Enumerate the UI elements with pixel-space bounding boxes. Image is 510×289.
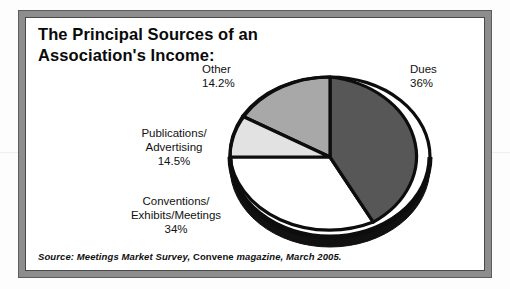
pie-label-dues-name: Dues — [410, 63, 437, 75]
pie-label-dues: Dues 36% — [410, 62, 437, 90]
pie-chart-plot-area: Other 14.2% Dues 36% Publications/ Adver… — [26, 18, 484, 270]
page-canvas: The Principal Sources of an Association'… — [0, 0, 510, 289]
pie-label-conventions: Conventions/ Exhibits/Meetings 34% — [114, 194, 238, 236]
pie-label-conventions-line2: Exhibits/Meetings — [114, 208, 238, 222]
figure-frame: The Principal Sources of an Association'… — [18, 10, 492, 278]
pie-label-conventions-line1: Conventions/ — [142, 195, 209, 207]
pie-label-other: Other 14.2% — [202, 62, 235, 90]
figure-inner-panel: The Principal Sources of an Association'… — [25, 17, 485, 271]
pie-label-publications-value: 14.5% — [122, 154, 226, 168]
source-note-suffix: magazine, March 2005. — [237, 251, 342, 262]
source-note: Source: Meetings Market Survey, Convene … — [38, 251, 342, 262]
pie-label-publications-line2: Advertising — [122, 140, 226, 154]
pie-label-other-name: Other — [202, 63, 231, 75]
pie-label-publications: Publications/ Advertising 14.5% — [122, 126, 226, 168]
pie-label-publications-line1: Publications/ — [141, 127, 206, 139]
source-note-prefix: Source: Meetings Market Survey, — [38, 251, 190, 262]
source-note-publication: Convene — [193, 251, 234, 262]
pie-label-conventions-value: 34% — [114, 222, 238, 236]
pie-label-other-value: 14.2% — [202, 76, 235, 90]
pie-chart-graphic — [26, 18, 485, 271]
pie-label-dues-value: 36% — [410, 76, 437, 90]
